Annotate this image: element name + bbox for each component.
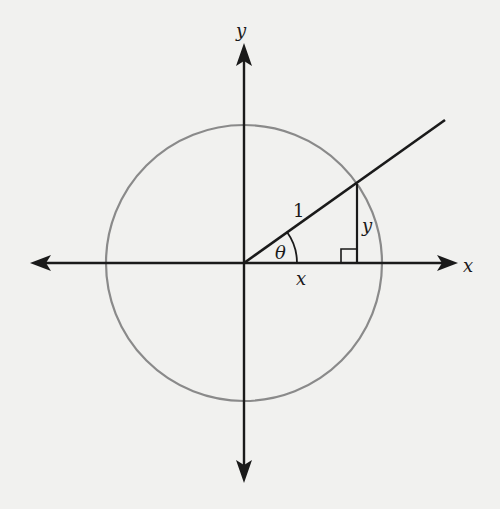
opposite-side-label: y bbox=[361, 215, 373, 236]
right-angle-marker bbox=[341, 249, 357, 263]
unit-circle-diagram: y x 1 θ y x bbox=[0, 0, 500, 509]
x-axis-label: x bbox=[463, 255, 473, 276]
y-axis-label: y bbox=[235, 20, 247, 41]
angle-label: θ bbox=[275, 242, 286, 263]
angle-arc bbox=[287, 232, 297, 263]
hypotenuse-label: 1 bbox=[293, 200, 304, 221]
adjacent-side-label: x bbox=[296, 268, 306, 289]
